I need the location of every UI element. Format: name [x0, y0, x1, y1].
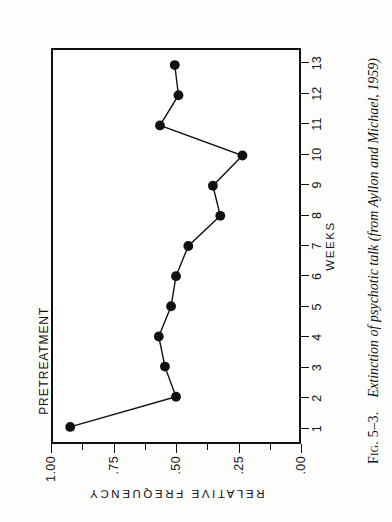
x-axis-title: WEEKS	[324, 48, 336, 444]
data-point	[174, 90, 184, 100]
data-point	[155, 120, 165, 130]
data-point	[166, 301, 176, 311]
x-axis-tick-label: 11	[310, 118, 324, 131]
x-axis-tick-label: 7	[310, 243, 324, 250]
data-point	[208, 181, 218, 191]
y-axis-tick	[51, 444, 52, 453]
data-point	[171, 392, 181, 402]
x-axis-tick-label: 4	[310, 334, 324, 341]
y-axis-tick-label: .00	[294, 456, 308, 475]
data-point	[154, 332, 164, 342]
figure-caption: Fig. 5–3. Extinction of psychotic talk (…	[366, 46, 382, 476]
x-axis-tick-label: 9	[310, 182, 324, 189]
x-axis-tick	[301, 367, 309, 368]
y-axis-tick-label: .25	[232, 456, 246, 475]
plot-frame: PRETREATMENT	[51, 48, 301, 444]
chart-figure: RELATIVE FREQUENCY 1.00.75.50.25.00 PRET…	[37, 26, 355, 496]
x-axis-tick	[301, 62, 309, 63]
y-axis-minor-tick	[207, 444, 208, 450]
data-point	[160, 362, 170, 372]
x-axis-tick-label: 3	[310, 364, 324, 371]
figure-caption-text: Extinction of psychotic talk (from Ayllo…	[366, 58, 381, 397]
pretreatment-label: PRETREATMENT	[37, 307, 51, 415]
figure-caption-label: Fig. 5–3.	[366, 411, 381, 464]
x-axis-tick-label: 10	[310, 148, 324, 162]
y-axis-minor-tick	[270, 444, 271, 450]
y-axis-tick-label: 1.00	[44, 456, 58, 482]
y-axis-tick	[176, 444, 177, 453]
data-point	[183, 241, 193, 251]
data-series-svg	[53, 50, 299, 442]
data-point	[65, 422, 75, 432]
y-axis-title: RELATIVE FREQUENCY	[51, 486, 301, 502]
data-line	[70, 65, 242, 427]
x-axis-tick	[301, 215, 309, 216]
x-axis-tick	[301, 306, 309, 307]
x-axis-tick-label: 12	[310, 87, 324, 101]
x-axis-tick-label: 6	[310, 273, 324, 280]
x-axis-tick-label: 13	[310, 56, 324, 70]
y-axis-tick	[301, 444, 302, 453]
x-axis-tick	[301, 184, 309, 185]
y-axis-title-label: RELATIVE FREQUENCY	[88, 488, 265, 500]
x-axis-tick	[301, 336, 309, 337]
y-axis-tick-label: .50	[169, 456, 183, 475]
figure-page: RELATIVE FREQUENCY 1.00.75.50.25.00 PRET…	[0, 0, 392, 522]
y-axis-tick	[114, 444, 115, 453]
x-axis-tick	[301, 428, 309, 429]
x-axis-tick	[301, 275, 309, 276]
y-axis-minor-tick	[145, 444, 146, 450]
x-axis-tick	[301, 93, 309, 94]
data-point	[170, 60, 180, 70]
x-axis-tick-label: 8	[310, 212, 324, 219]
x-axis-tick-label: 5	[310, 303, 324, 310]
x-axis-tick-label: 1	[310, 425, 324, 432]
data-point	[171, 271, 181, 281]
plot-inner: PRETREATMENT	[53, 50, 299, 442]
y-axis-minor-tick	[82, 444, 83, 450]
y-axis-tick	[239, 444, 240, 453]
x-axis-tick	[301, 397, 309, 398]
x-axis-tick	[301, 245, 309, 246]
y-axis-tick-label: .75	[107, 456, 121, 475]
data-point	[238, 151, 248, 161]
x-axis-tick	[301, 123, 309, 124]
x-axis-tick-label: 2	[310, 395, 324, 402]
x-axis-tick	[301, 154, 309, 155]
data-point	[215, 211, 225, 221]
